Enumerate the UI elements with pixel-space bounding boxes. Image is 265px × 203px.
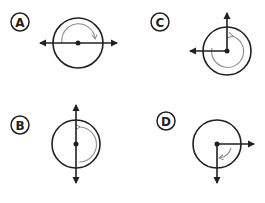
- option-a-vertex-dot: [76, 41, 81, 46]
- option-b-vertex-dot: [74, 142, 79, 147]
- option-d-label-badge: D: [157, 112, 175, 130]
- option-d-label: D: [161, 115, 171, 129]
- option-b-rotation-arc-icon: [79, 127, 97, 162]
- option-d[interactable]: D: [157, 112, 254, 183]
- option-a-label-badge: A: [11, 13, 29, 31]
- option-c-label-badge: C: [151, 13, 169, 31]
- option-b[interactable]: B: [11, 105, 100, 183]
- angle-rotation-diagram: A C B D: [0, 0, 265, 203]
- option-d-vertex-dot: [215, 142, 220, 147]
- option-a-rotation-arc-icon: [62, 24, 95, 43]
- option-a-label: A: [15, 16, 25, 30]
- option-b-label-badge: B: [11, 116, 29, 134]
- option-c-vertex-dot: [225, 49, 230, 54]
- option-c-label: C: [156, 16, 165, 30]
- option-b-label: B: [15, 119, 24, 133]
- option-a[interactable]: A: [11, 13, 117, 68]
- option-c[interactable]: C: [151, 13, 251, 75]
- option-d-rotation-arc-icon: [220, 148, 231, 158]
